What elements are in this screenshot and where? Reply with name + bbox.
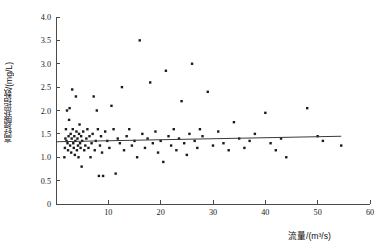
data-point — [67, 135, 69, 137]
data-point — [69, 133, 71, 135]
trend-line — [56, 136, 341, 142]
data-point — [71, 137, 73, 139]
data-point — [85, 137, 87, 139]
data-point — [72, 142, 74, 144]
data-point — [72, 128, 74, 130]
data-point — [94, 149, 96, 151]
data-point — [104, 130, 106, 132]
data-point — [248, 140, 250, 142]
data-point — [191, 63, 193, 65]
data-point — [75, 130, 77, 132]
data-point — [87, 147, 89, 149]
data-point — [119, 142, 121, 144]
data-point — [275, 149, 277, 151]
data-point — [90, 142, 92, 144]
data-point — [322, 140, 324, 142]
data-point — [92, 95, 94, 97]
data-point — [264, 112, 266, 114]
data-point — [131, 144, 133, 146]
x-tick-label: 20 — [157, 208, 165, 217]
data-point — [80, 135, 82, 137]
data-point — [180, 100, 182, 102]
data-point — [117, 137, 119, 139]
y-tick-label: 4.0 — [41, 13, 51, 22]
x-axis-title-text: 流量/(m³/s) — [288, 231, 331, 241]
data-point — [196, 147, 198, 149]
data-point — [193, 140, 195, 142]
x-tick-label: 10 — [104, 208, 112, 217]
data-point — [70, 151, 72, 153]
data-point — [102, 175, 104, 177]
data-point — [101, 151, 103, 153]
data-point — [96, 109, 98, 111]
data-point — [76, 149, 78, 151]
data-point — [84, 144, 86, 146]
data-point — [306, 107, 308, 109]
data-point — [254, 133, 256, 135]
data-point — [64, 137, 66, 139]
data-point — [186, 154, 188, 156]
x-tick-label: 30 — [209, 208, 217, 217]
data-point — [110, 105, 112, 107]
data-point — [123, 149, 125, 151]
data-point — [79, 147, 81, 149]
data-point — [141, 133, 143, 135]
data-point — [146, 137, 148, 139]
data-point — [74, 154, 76, 156]
data-point — [125, 135, 127, 137]
data-point — [97, 128, 99, 130]
data-point — [243, 147, 245, 149]
data-point — [217, 130, 219, 132]
data-point — [73, 135, 75, 137]
data-point — [91, 133, 93, 135]
data-point — [66, 142, 68, 144]
data-point — [128, 128, 130, 130]
data-point — [98, 175, 100, 177]
data-point — [76, 137, 78, 139]
data-point — [207, 91, 209, 93]
data-point — [162, 161, 164, 163]
data-point — [65, 128, 67, 130]
y-tick-label: 0 — [47, 200, 51, 209]
data-point — [136, 156, 138, 158]
data-point — [100, 135, 102, 137]
data-point — [152, 142, 154, 144]
data-point — [80, 165, 82, 167]
data-point — [222, 142, 224, 144]
data-point — [86, 128, 88, 130]
x-axis-title: 流量/(m³/s) — [288, 229, 331, 241]
data-point — [154, 130, 156, 132]
data-point — [170, 144, 172, 146]
data-point — [139, 39, 141, 41]
y-tick-label: 3.0 — [41, 60, 51, 69]
data-point — [112, 128, 114, 130]
data-point — [67, 149, 69, 151]
data-point — [149, 81, 151, 83]
data-point — [66, 109, 68, 111]
y-tick-label: 1.0 — [41, 153, 51, 162]
data-point — [88, 135, 90, 137]
data-point — [79, 142, 81, 144]
data-point — [188, 133, 190, 135]
data-point — [165, 70, 167, 72]
y-tick-label: 1.5 — [41, 130, 51, 139]
data-point — [212, 144, 214, 146]
data-point — [71, 88, 73, 90]
data-point — [340, 144, 342, 146]
data-point — [175, 149, 177, 151]
data-point — [83, 149, 85, 151]
data-point — [108, 147, 110, 149]
data-point — [173, 128, 175, 130]
data-point — [64, 147, 66, 149]
data-point — [75, 95, 77, 97]
x-tick-label: 60 — [366, 208, 374, 217]
data-point — [121, 86, 123, 88]
scatter-chart-figure: 00.51.01.52.02.53.03.54.0102030405060 高锰… — [0, 0, 383, 250]
data-point — [78, 133, 80, 135]
data-point — [228, 149, 230, 151]
y-tick-label: 2.5 — [41, 83, 51, 92]
data-point — [69, 144, 71, 146]
data-point — [157, 151, 159, 153]
x-tick-label: 50 — [314, 208, 322, 217]
data-point — [144, 147, 146, 149]
